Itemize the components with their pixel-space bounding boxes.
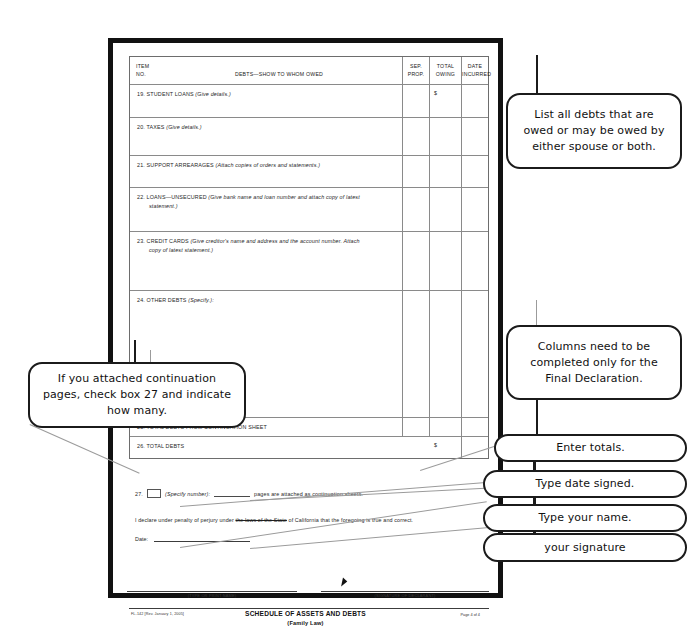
row-25-sep-prop[interactable] [403, 418, 430, 436]
row-20-label: TAXES [147, 124, 165, 130]
row-19-sep-prop[interactable] [403, 85, 430, 117]
table-row[interactable]: 26. TOTAL DEBTS $ [130, 437, 488, 458]
header-cell-sep-prop: SEP. PROP. [403, 57, 430, 84]
row-24-total-owing[interactable] [430, 291, 462, 417]
row-23-label: CREDIT CARDS [147, 238, 189, 244]
callout-type-your-name: Type your name. [483, 504, 687, 532]
header-total-line2: OWING [436, 71, 455, 77]
row-19-total-owing[interactable]: $ [430, 85, 462, 117]
footer-title: SCHEDULE OF ASSETS AND DEBTS (Family Law… [113, 610, 498, 627]
row-22-label: LOANS—UNSECURED [147, 194, 207, 200]
row-19-date-incurred[interactable] [462, 85, 488, 117]
row-21-number: 21. [137, 162, 145, 168]
row-23-total-owing[interactable] [430, 232, 462, 290]
table-row[interactable]: 22. LOANS—UNSECURED (Give bank name and … [130, 188, 488, 232]
leader-line-columns-final-bottom [536, 395, 538, 435]
callout-your-signature: your signature [483, 533, 687, 562]
date-label: Date: [135, 536, 148, 542]
header-total-line1: TOTAL [437, 63, 454, 69]
row-23-description[interactable]: 23. CREDIT CARDS (Give creditor's name a… [130, 232, 403, 290]
row-20-description[interactable]: 20. TAXES (Give details.) [130, 118, 403, 155]
row-22-description[interactable]: 22. LOANS—UNSECURED (Give bank name and … [130, 188, 403, 231]
row-22-sep-prop[interactable] [403, 188, 430, 231]
row-23-number: 23. [137, 238, 145, 244]
row-26-total-owing[interactable]: $ [430, 437, 462, 458]
row-21-label: SUPPORT ARREARAGES [147, 162, 214, 168]
table-row[interactable]: 19. STUDENT LOANS (Give details.) $ [130, 85, 488, 118]
callout-enter-totals-text: Enter totals. [546, 440, 635, 456]
row-23-date-incurred[interactable] [462, 232, 488, 290]
row-25-date-incurred[interactable] [462, 418, 488, 436]
row-25-total-owing[interactable] [430, 418, 462, 436]
declaration-part1: I declare under penalty of perjury under [135, 517, 236, 523]
callout-type-date-signed-text: Type date signed. [526, 476, 645, 492]
footer-title-main: SCHEDULE OF ASSETS AND DEBTS [245, 610, 366, 617]
row-23-sep-prop[interactable] [403, 232, 430, 290]
row-20-number: 20. [137, 124, 145, 130]
row-26-description[interactable]: 26. TOTAL DEBTS [130, 437, 430, 458]
row-24-number: 24. [137, 297, 145, 303]
print-name-caption: (TYPE OR PRINT NAME) [127, 593, 297, 598]
row-20-sep-prop[interactable] [403, 118, 430, 155]
item-27-checkbox[interactable] [147, 489, 161, 498]
row-19-number: 19. [137, 91, 145, 97]
signature-caption: (SIGNATURE OF DECLARANT) [321, 593, 489, 598]
row-22-total-owing[interactable] [430, 188, 462, 231]
table-header-row: ITEM NO. DEBTS—SHOW TO WHOM OWED SEP. PR… [130, 57, 488, 85]
row-21-sep-prop[interactable] [403, 156, 430, 187]
callout-type-date-signed: Type date signed. [483, 470, 687, 498]
header-cell-description: ITEM NO. DEBTS—SHOW TO WHOM OWED [130, 57, 403, 84]
row-23-note2: copy of latest statement.) [137, 246, 398, 255]
row-21-total-owing[interactable] [430, 156, 462, 187]
footer-title-sub: (Family Law) [287, 620, 323, 626]
row-24-label: OTHER DEBTS [147, 297, 187, 303]
callout-continuation-pages: If you attached continuation pages, chec… [28, 362, 246, 428]
row-21-date-incurred[interactable] [462, 156, 488, 187]
print-name-rule[interactable] [127, 591, 297, 592]
row-19-description[interactable]: 19. STUDENT LOANS (Give details.) [130, 85, 403, 117]
item-27-number-input[interactable] [214, 490, 250, 497]
row-21-description[interactable]: 21. SUPPORT ARREARAGES (Attach copies of… [130, 156, 403, 187]
table-row[interactable]: 21. SUPPORT ARREARAGES (Attach copies of… [130, 156, 488, 188]
item-27-number: 27. [135, 491, 143, 497]
form-page: ITEM NO. DEBTS—SHOW TO WHOM OWED SEP. PR… [108, 38, 503, 598]
row-20-note: (Give details.) [166, 124, 202, 130]
callout-columns-final-text: Columns need to be completed only for th… [508, 339, 680, 387]
callout-enter-totals: Enter totals. [494, 434, 687, 462]
header-sep-line2: PROP. [408, 71, 425, 77]
row-20-total-owing[interactable] [430, 118, 462, 155]
header-date-line1: DATE [468, 63, 482, 69]
header-cell-date-incurred: DATE INCURRED [462, 57, 488, 84]
footer-divider [129, 608, 489, 609]
row-22-number: 22. [137, 194, 145, 200]
leader-line-columns-final-top [536, 300, 537, 326]
signature-rule[interactable] [321, 591, 489, 592]
callout-your-signature-text: your signature [534, 540, 635, 556]
row-24-date-incurred[interactable] [462, 291, 488, 417]
row-24-sep-prop[interactable] [403, 291, 430, 417]
callout-type-your-name-text: Type your name. [528, 510, 641, 526]
row-21-note: (Attach copies of orders and statements.… [215, 162, 320, 168]
row-26-number: 26. [137, 443, 145, 449]
row-19-label: STUDENT LOANS [147, 91, 194, 97]
mouse-cursor-icon [341, 578, 348, 588]
header-date-line2: INCURRED [462, 71, 491, 77]
row-19-note: (Give details.) [195, 91, 231, 97]
leader-line-continuation-top [134, 340, 136, 364]
item-27-specify-label: (Specify number): [165, 491, 210, 497]
row-22-note: (Give bank name and loan number and atta… [208, 194, 360, 200]
table-row[interactable]: 23. CREDIT CARDS (Give creditor's name a… [130, 232, 488, 291]
row-22-date-incurred[interactable] [462, 188, 488, 231]
callout-continuation-pages-text: If you attached continuation pages, chec… [30, 371, 244, 419]
row-26-label: TOTAL DEBTS [147, 443, 185, 449]
header-cell-total-owing: TOTAL OWING [430, 57, 462, 84]
row-22-note2: statement.) [137, 202, 398, 211]
dollar-sign: $ [434, 90, 437, 96]
row-20-date-incurred[interactable] [462, 118, 488, 155]
page-number: Page 4 of 4 [461, 613, 480, 617]
header-sep-line1: SEP. [410, 63, 422, 69]
leader-line-debts-scope [536, 55, 538, 95]
table-row[interactable]: 20. TAXES (Give details.) [130, 118, 488, 156]
row-24-note: (Specify.): [188, 297, 214, 303]
dollar-sign: $ [434, 442, 437, 448]
